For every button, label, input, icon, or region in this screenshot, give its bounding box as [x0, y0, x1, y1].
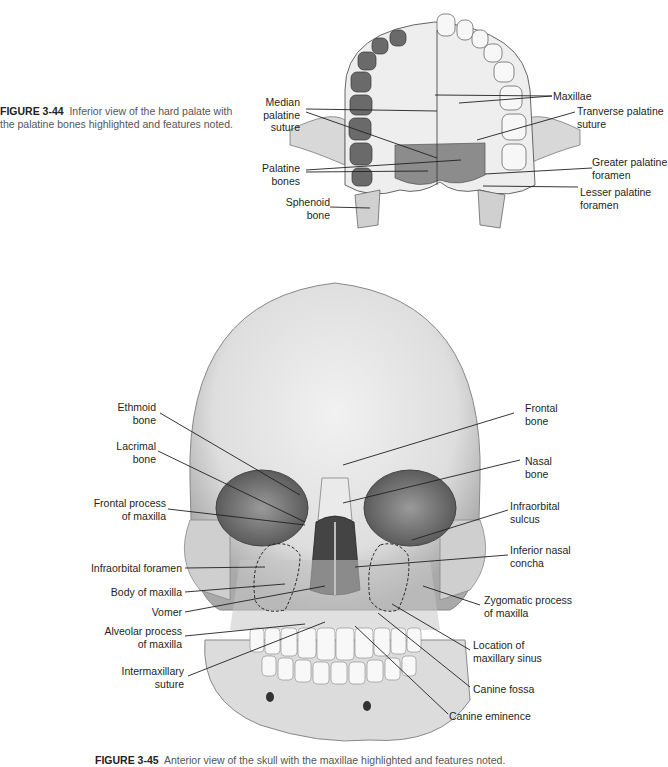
- label-vomer: Vomer: [152, 606, 182, 619]
- label-median-palatine-suture: Median palatine suture: [263, 96, 300, 134]
- label-maxillae: Maxillae: [553, 90, 592, 103]
- label-ethmoid-bone: Ethmoid bone: [117, 401, 156, 426]
- figure-caption-text: Anterior view of the skull with the maxi…: [164, 754, 505, 766]
- label-canine-eminence: Canine eminence: [449, 710, 531, 723]
- label-greater-palatine-foramen: Greater palatine foramen: [592, 156, 667, 181]
- skull-anterior-illustration: [184, 283, 485, 741]
- label-frontal-process-of-maxilla: Frontal process of maxilla: [94, 497, 166, 522]
- label-lacrimal-bone: Lacrimal bone: [116, 440, 156, 465]
- figure-caption-3-45: FIGURE 3-45 Anterior view of the skull w…: [95, 754, 655, 767]
- figure-caption-3-44: FIGURE 3-44 Inferior view of the hard pa…: [0, 105, 240, 131]
- label-location-of-maxillary-sinus: Location of maxillary sinus: [473, 639, 542, 664]
- label-lesser-palatine-foramen: Lesser palatine foramen: [580, 186, 651, 211]
- label-nasal-bone: Nasal bone: [525, 455, 552, 480]
- label-zygomatic-process-of-maxilla: Zygomatic process of maxilla: [484, 594, 572, 619]
- label-body-of-maxilla: Body of maxilla: [111, 586, 182, 599]
- label-tranverse-palatine-suture: Tranverse palatine suture: [577, 105, 664, 130]
- label-frontal-bone: Frontal bone: [525, 402, 558, 427]
- label-intermaxillary-suture: Intermaxillary suture: [122, 665, 184, 690]
- figure-number: FIGURE 3-44: [0, 105, 64, 117]
- label-infraorbital-sulcus: Infraorbital sulcus: [510, 500, 560, 525]
- figure-number: FIGURE 3-45: [95, 754, 159, 766]
- hard-palate-illustration: [290, 14, 580, 228]
- label-canine-fossa: Canine fossa: [473, 683, 534, 696]
- label-alveolar-process-of-maxilla: Alveolar process of maxilla: [104, 625, 182, 650]
- label-infraorbital-foramen: Infraorbital foramen: [91, 562, 182, 575]
- label-sphenoid-bone: Sphenoid bone: [286, 196, 330, 221]
- label-inferior-nasal-concha: Inferior nasal concha: [510, 544, 571, 569]
- label-palatine-bones: Palatine bones: [262, 162, 300, 187]
